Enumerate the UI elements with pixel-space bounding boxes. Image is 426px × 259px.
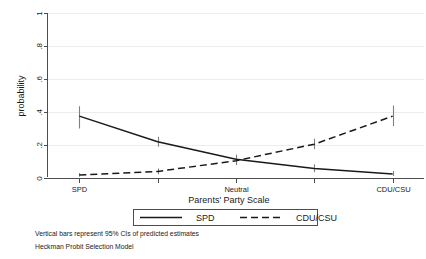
chart-figure: 0.2.4.6.81 SPDNeutralCDU/CSU probability… bbox=[0, 0, 426, 259]
x-axis-category-label: SPD bbox=[72, 185, 88, 194]
note-line-model: Heckman Probit Selection Model bbox=[35, 243, 134, 250]
y-axis-tick-label: .6 bbox=[35, 76, 44, 83]
y-axis-tick-label: .8 bbox=[35, 43, 44, 50]
legend-label-cdu-csu: CDU/CSU bbox=[296, 213, 337, 223]
y-axis-tick-label: .2 bbox=[35, 142, 44, 149]
legend-label-spd: SPD bbox=[196, 213, 215, 223]
y-axis-title: probability bbox=[16, 75, 26, 117]
probability-line-chart: 0.2.4.6.81 SPDNeutralCDU/CSU probability… bbox=[0, 0, 426, 259]
y-axis-tick-label: 1 bbox=[35, 11, 44, 16]
x-axis-category-label: Neutral bbox=[224, 185, 249, 194]
x-axis-title: Parents' Party Scale bbox=[188, 195, 269, 205]
y-axis-tick-label: 0 bbox=[35, 176, 44, 181]
note-line-ci: Vertical bars represent 95% CIs of predi… bbox=[35, 230, 200, 238]
x-axis-category-label: CDU/CSU bbox=[376, 185, 410, 194]
y-axis-tick-label: .4 bbox=[35, 109, 44, 116]
